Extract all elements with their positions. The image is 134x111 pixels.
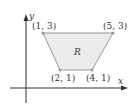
- vertex-point-4-1: [90, 68, 93, 71]
- vertex-label-4-1: (4, 1): [86, 73, 110, 83]
- region-label: R: [73, 47, 81, 57]
- y-axis-arrow-icon: [24, 14, 29, 21]
- vertex-label-1-3: (1, 3): [32, 21, 56, 31]
- x-axis-arrow-icon: [121, 86, 128, 91]
- coordinate-diagram: y x R (1, 3) (5, 3) (2, 1) (4, 1): [0, 0, 134, 111]
- vertex-label-5-3: (5, 3): [103, 21, 127, 31]
- vertex-point-5-3: [111, 31, 114, 34]
- vertex-point-2-1: [58, 68, 61, 71]
- vertex-label-2-1: (2, 1): [51, 73, 75, 83]
- y-axis-label: y: [28, 11, 35, 21]
- x-axis-label: x: [118, 76, 123, 86]
- vertex-point-1-3: [41, 31, 44, 34]
